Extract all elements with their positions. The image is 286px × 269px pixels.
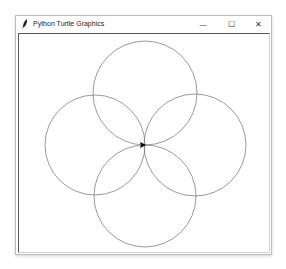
- turtle-drawing: [0, 0, 286, 269]
- circle-left: [45, 95, 145, 195]
- circle-top: [93, 41, 197, 145]
- circle-bottom: [94, 145, 196, 247]
- circle-right: [144, 94, 246, 196]
